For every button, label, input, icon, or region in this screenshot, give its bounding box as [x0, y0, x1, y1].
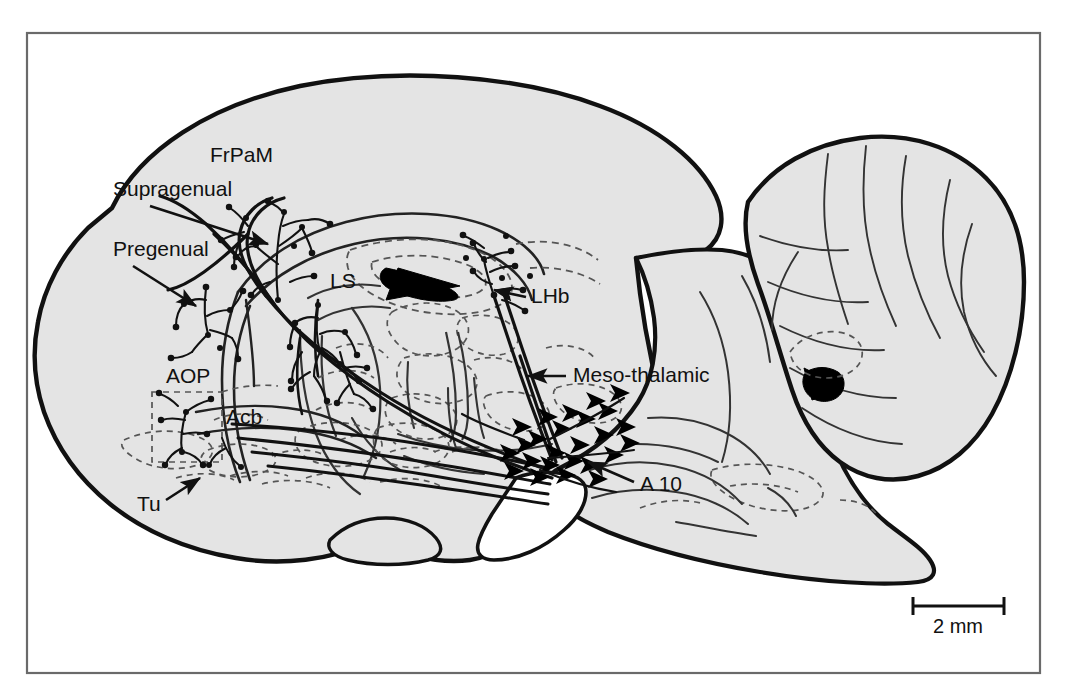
label-mesothalamic: Meso-thalamic: [573, 363, 710, 386]
scale-bar-label: 2 mm: [933, 615, 983, 637]
label-tu: Tu: [137, 492, 161, 515]
label-acb: Acb: [226, 405, 262, 428]
label-frpam: FrPaM: [210, 143, 273, 166]
brain-sagittal-diagram: FrPaM Supragenual Pregenual LS LHb AOP A…: [0, 0, 1075, 690]
label-ls: LS: [330, 269, 356, 292]
label-a10: A 10: [640, 472, 682, 495]
label-supragenual: Supragenual: [113, 177, 232, 200]
label-lhb: LHb: [531, 284, 570, 307]
label-aop: AOP: [166, 364, 210, 387]
label-pregenual: Pregenual: [113, 237, 209, 260]
figure-panel: FrPaM Supragenual Pregenual LS LHb AOP A…: [0, 0, 1075, 690]
